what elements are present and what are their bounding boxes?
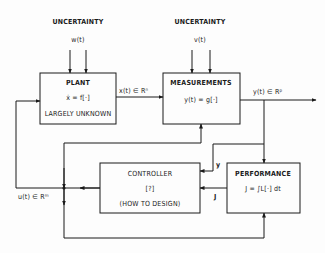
junction-dot — [62, 186, 65, 189]
j-feedback-label: J — [214, 194, 217, 201]
measurements-equation: y(t) = g[·] — [184, 97, 218, 104]
control-system-diagram: UNCERTAINTY w(t) UNCERTAINTY v(t) PLANT … — [0, 0, 325, 253]
uncertainty-plant-title: UNCERTAINTY — [52, 19, 103, 26]
uncertainty-meas-title: UNCERTAINTY — [174, 19, 225, 26]
controller-note: (HOW TO DESIGN) — [120, 201, 181, 208]
state-signal-label: x(t) ∈ Rⁿ — [119, 88, 148, 95]
v-signal-label: v(t) — [194, 37, 206, 44]
plant-title: PLANT — [66, 80, 90, 87]
plant-note: LARGELY UNKNOWN — [45, 111, 112, 118]
y-feedback-label: y — [216, 162, 220, 169]
measurements-title: MEASUREMENTS — [170, 80, 231, 87]
w-signal-label: w(t) — [71, 37, 84, 44]
control-signal-label: u(t) ∈ Rᵐ — [18, 194, 49, 201]
controller-equation: [?] — [146, 186, 155, 193]
diagram-lines — [0, 0, 325, 253]
plant-equation: ẋ = f[·] — [66, 95, 90, 102]
performance-title: PERFORMANCE — [235, 171, 291, 178]
performance-equation: J = ∫L[·] dt — [245, 186, 281, 193]
controller-title: CONTROLLER — [128, 171, 173, 178]
output-signal-label: y(t) ∈ Rᵖ — [253, 89, 282, 96]
